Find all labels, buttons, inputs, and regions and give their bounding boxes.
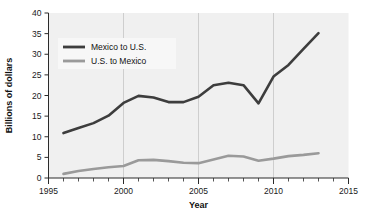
y-tick-label: 40 [32,8,42,18]
chart-container: 19952000200520102015 0510152025303540 Me… [0,0,380,223]
y-axis-title: Billions of dollars [4,58,14,134]
x-tick-label: 2005 [189,186,208,196]
y-tick-label: 30 [32,49,42,59]
legend-label-1: Mexico to U.S. [91,42,146,52]
y-tick-label: 0 [37,173,42,183]
y-tick-label: 5 [37,152,42,162]
y-axis-ticks [45,13,49,178]
line-chart: 19952000200520102015 0510152025303540 Me… [0,0,380,223]
x-axis-title: Year [189,200,209,210]
x-axis-tick-labels: 19952000200520102015 [39,186,358,196]
y-tick-label: 25 [32,70,42,80]
x-tick-label: 2010 [264,186,283,196]
y-tick-label: 35 [32,29,42,39]
y-tick-label: 15 [32,111,42,121]
legend-label-2: U.S. to Mexico [91,56,147,66]
x-tick-label: 2015 [339,186,358,196]
y-axis-tick-labels: 0510152025303540 [32,8,42,183]
x-tick-label: 1995 [39,186,58,196]
y-tick-label: 10 [32,132,42,142]
chart-legend: Mexico to U.S.U.S. to Mexico [58,38,176,69]
y-tick-label: 20 [32,91,42,101]
x-tick-label: 2000 [114,186,133,196]
